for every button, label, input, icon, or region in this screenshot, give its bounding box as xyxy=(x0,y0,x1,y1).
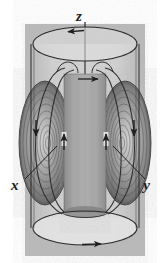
axis-label-x: x xyxy=(10,177,19,193)
cylinder-top-cap xyxy=(33,27,137,61)
figure-canvas: z x y xyxy=(0,0,162,263)
axis-label-z: z xyxy=(75,8,82,24)
arrow-bottom-rim-circulation xyxy=(82,244,101,245)
scientific-figure: z x y xyxy=(0,0,162,263)
axis-label-y: y xyxy=(141,177,150,193)
central-core-column xyxy=(64,74,106,218)
